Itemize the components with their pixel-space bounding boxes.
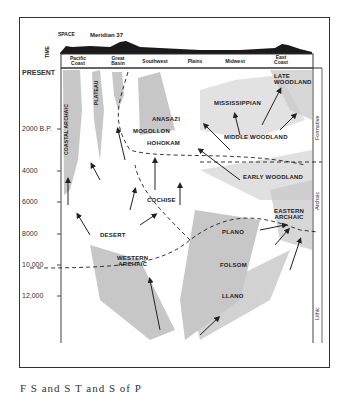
axis-present: PRESENT xyxy=(22,69,55,76)
region-great-basin: Great Basin xyxy=(106,56,130,67)
label-anasazi: ANASAZI xyxy=(152,116,180,122)
stage-archaic: Archaic xyxy=(314,192,320,210)
label-plano: PLANO xyxy=(222,229,244,235)
label-early-woodland: EARLY WOODLAND xyxy=(243,174,303,180)
space-label: SPACE xyxy=(58,31,75,37)
terrain-silhouette xyxy=(60,41,312,54)
label-plateau: PLATEAU xyxy=(94,80,99,105)
label-llano: LLANO xyxy=(222,293,244,299)
axis-10000: 10,000 xyxy=(22,261,43,268)
stage-lithic: Lithic xyxy=(314,307,320,320)
axis-2000: 2000 B.P. xyxy=(22,125,52,132)
region-southwest: Southwest xyxy=(135,59,175,64)
label-coastal-archaic: COASTAL ARCHAIC xyxy=(64,104,69,155)
label-folsom: FOLSOM xyxy=(220,262,247,268)
region-plains: Plains xyxy=(180,59,210,64)
label-western-archaic: WESTERN ARCHAIC xyxy=(117,255,148,267)
label-hohokam: HOHOKAM xyxy=(147,140,180,146)
meridian-label: Meridian 37 xyxy=(90,32,123,38)
label-cochise: COCHISE xyxy=(147,197,176,203)
time-label: TIME xyxy=(44,46,50,58)
stage-formative: Formative xyxy=(314,116,320,140)
region-east-coast: East Coast xyxy=(268,55,294,66)
region-pacific-coast: Pacific Coast xyxy=(64,56,92,67)
figure-caption: F S and S T and S of P xyxy=(20,382,142,394)
axis-8000: 8000 xyxy=(22,230,38,237)
label-desert: DESERT xyxy=(100,232,126,238)
axis-6000: 6000 xyxy=(22,198,38,205)
label-mogollon: MOGOLLON xyxy=(133,128,170,134)
label-middle-woodland: MIDDLE WOODLAND xyxy=(224,134,288,140)
label-late-woodland: LATE WOODLAND xyxy=(274,73,312,85)
axis-4000: 4000 xyxy=(22,167,38,174)
axis-12000: 12,000 xyxy=(22,292,43,299)
label-mississippian: MISSISSIPPIAN xyxy=(214,100,261,106)
region-midwest: Midwest xyxy=(220,59,250,64)
label-eastern-archaic: EASTERN ARCHAIC xyxy=(274,208,304,220)
